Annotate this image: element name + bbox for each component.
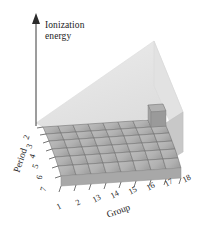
chart-figure: Ionization energy 2 3 4 5 6 7 Period 1 2…	[0, 0, 212, 245]
surface-3d-plot	[0, 0, 212, 245]
helium-cell-front-face	[151, 111, 166, 127]
vertical-axis	[32, 13, 40, 126]
raised-helium-cell	[148, 104, 166, 127]
z-axis-label-line1: Ionization	[45, 20, 85, 31]
z-axis-label: Ionization energy	[45, 20, 85, 41]
up-arrow-icon	[32, 13, 40, 24]
z-axis-label-line2: energy	[45, 31, 85, 42]
